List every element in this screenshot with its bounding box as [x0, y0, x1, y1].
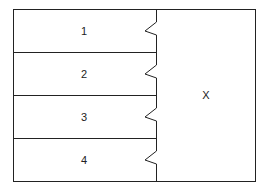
right-panel-label: X — [202, 89, 210, 101]
row-label: 1 — [81, 25, 87, 37]
row-label: 2 — [81, 68, 87, 80]
row-label: 3 — [81, 111, 87, 123]
partition-diagram: 1 2 3 4 X — [0, 0, 273, 192]
row-label: 4 — [81, 154, 87, 166]
